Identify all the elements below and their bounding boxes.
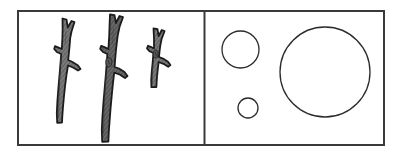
figure-canvas	[0, 0, 401, 157]
outer-frame	[18, 11, 384, 145]
figure-container	[0, 0, 401, 157]
